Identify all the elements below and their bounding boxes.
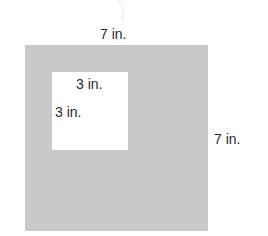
outer-width-label: 7 in. [100,26,126,42]
scan-artifact-arc [100,0,130,22]
inner-width-label: 3 in. [76,76,102,92]
outer-height-label: 7 in. [214,131,240,147]
inner-height-label: 3 in. [55,104,81,120]
